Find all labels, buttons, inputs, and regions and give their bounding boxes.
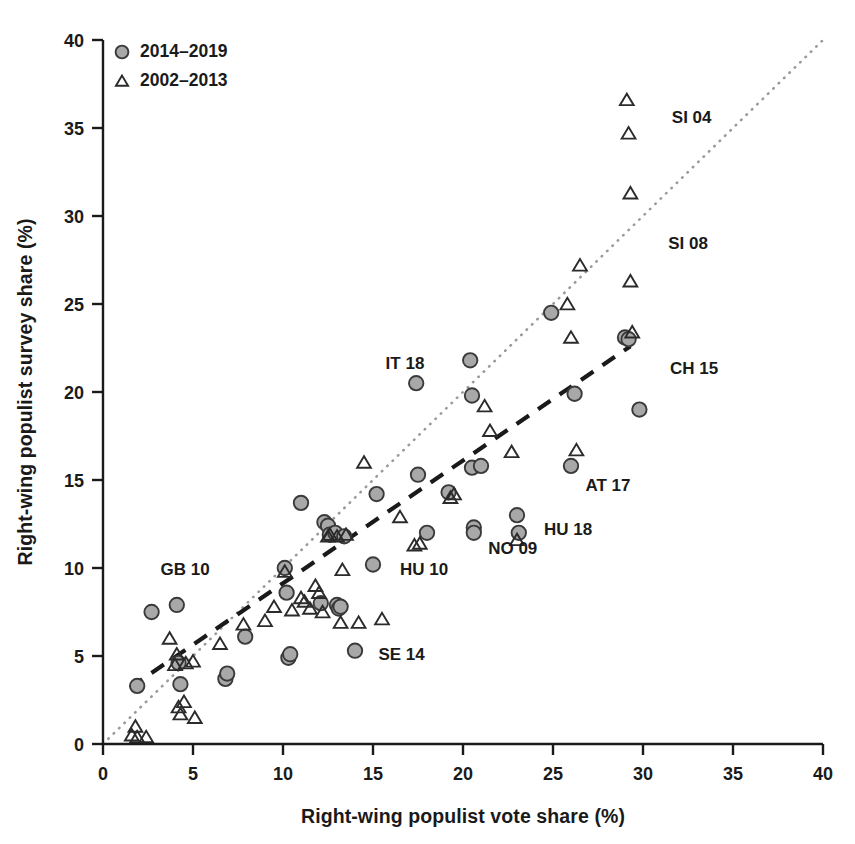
y-axis-tick-label: 40 [64,31,84,51]
data-point-circle [144,605,158,619]
data-point-triangle [237,618,251,630]
identity-line [103,40,823,744]
x-axis-tick-label: 20 [453,764,473,784]
data-point-triangle [267,601,281,613]
point-annotation-label: IT 18 [386,354,425,373]
data-point-triangle [624,275,638,287]
data-point-circle [567,387,581,401]
x-axis-tick-label: 5 [188,764,198,784]
data-point-triangle [393,511,407,523]
data-point-triangle [573,259,587,271]
data-point-triangle [620,94,634,106]
data-point-circle [510,508,524,522]
data-point-circle [348,644,362,658]
data-point-circle [333,600,347,614]
data-point-triangle [624,187,638,199]
x-axis-tick-label: 15 [363,764,383,784]
data-point-triangle [334,616,348,628]
scatter-plot: 05101520253035400510152025303540Right-wi… [0,0,855,844]
x-axis-title: Right-wing populist vote share (%) [301,805,625,827]
data-point-circle [411,468,425,482]
data-point-triangle [258,615,272,627]
x-axis-tick-label: 0 [98,764,108,784]
data-point-circle [369,487,383,501]
y-axis-tick-label: 10 [64,559,84,579]
data-point-circle [420,526,434,540]
legend-marker-triangle [116,76,128,86]
legend-label-1: 2014–2019 [140,41,228,61]
data-point-circle [283,647,297,661]
data-point-triangle [561,298,575,310]
data-point-triangle [483,425,497,437]
data-point-triangle [375,613,389,625]
data-point-triangle [336,564,350,576]
data-point-circle [621,332,635,346]
x-axis-tick-label: 40 [813,764,833,784]
data-point-triangle [213,637,227,649]
y-axis-tick-label: 25 [64,295,84,315]
y-axis-title: Right-wing populist survey share (%) [14,218,36,565]
data-point-triangle [564,331,578,343]
data-point-circle [130,679,144,693]
y-axis-tick-label: 0 [74,735,84,755]
data-point-circle [409,376,423,390]
data-point-circle [474,459,488,473]
point-annotation-label: SI 08 [668,234,708,253]
data-point-circle [463,353,477,367]
data-point-triangle [163,632,177,644]
x-axis-tick-label: 35 [723,764,743,784]
data-point-circle [173,677,187,691]
data-point-triangle [129,720,143,732]
data-point-triangle [622,127,636,139]
point-annotation-label: CH 15 [670,359,718,378]
x-axis-tick-label: 30 [633,764,653,784]
data-point-circle [220,666,234,680]
y-axis-tick-label: 30 [64,207,84,227]
data-point-triangle [505,446,519,458]
point-annotation-label: GB 10 [161,560,210,579]
data-point-circle [465,388,479,402]
data-point-circle [467,526,481,540]
data-point-triangle [285,604,299,616]
y-axis-tick-label: 5 [74,647,84,667]
legend-marker-circle [116,46,129,59]
point-annotation-label: SI 04 [672,108,712,127]
x-axis-tick-label: 25 [543,764,563,784]
x-axis-tick-label: 10 [273,764,293,784]
figure-container: 05101520253035400510152025303540Right-wi… [0,0,855,844]
point-annotation-label: HU 18 [544,520,592,539]
data-point-circle [170,598,184,612]
data-point-triangle [174,708,188,720]
data-point-triangle [188,711,202,723]
data-point-circle [564,459,578,473]
point-annotation-label: NO 09 [488,539,537,558]
data-point-triangle [357,456,371,468]
legend-label-2: 2002–2013 [140,70,228,90]
point-annotation-label: SE 14 [378,645,425,664]
data-point-circle [294,496,308,510]
data-point-circle [366,557,380,571]
data-point-circle [279,585,293,599]
data-point-triangle [352,616,366,628]
data-point-circle [544,306,558,320]
data-point-circle [632,402,646,416]
y-axis-tick-label: 15 [64,471,84,491]
y-axis-tick-label: 20 [64,383,84,403]
point-annotation-label: AT 17 [585,476,630,495]
data-point-triangle [478,400,492,412]
point-annotation-label: HU 10 [400,560,448,579]
fit-line [130,346,630,687]
y-axis-tick-label: 35 [64,119,84,139]
data-point-triangle [570,444,584,456]
data-point-circle [238,629,252,643]
